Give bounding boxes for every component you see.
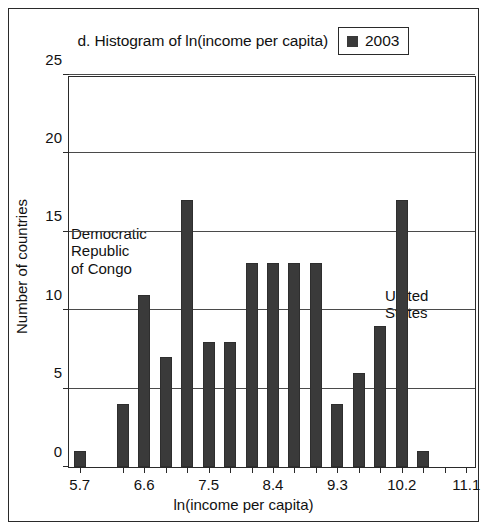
x-axis-tick-mark — [80, 467, 81, 473]
x-axis-tick-label: 9.3 — [327, 476, 348, 493]
figure-panel: d. Histogram of ln(income per capita) 20… — [8, 8, 479, 522]
y-axis-title: Number of countries — [11, 9, 33, 523]
histogram-bar — [396, 200, 408, 467]
histogram-bar — [181, 200, 193, 467]
x-axis-tick-mark — [144, 467, 145, 473]
x-axis-tick-mark — [445, 467, 446, 473]
chart-header: d. Histogram of ln(income per capita) 20… — [9, 21, 478, 61]
y-gridline — [69, 231, 475, 232]
histogram-bar — [246, 263, 258, 467]
legend-swatch-icon — [347, 36, 358, 47]
x-axis-tick-mark — [230, 467, 231, 473]
histogram-bar — [417, 451, 429, 467]
y-axis-tick-label: 20 — [45, 128, 69, 145]
x-axis-tick-mark — [187, 467, 188, 473]
y-axis-tick-label: 5 — [54, 364, 69, 381]
y-gridline — [69, 74, 475, 75]
x-axis-tick-label: 6.6 — [134, 476, 155, 493]
x-axis-tick-label: 11.1 — [452, 476, 480, 493]
x-axis-tick-mark — [380, 467, 381, 473]
x-axis-tick-mark — [294, 467, 295, 473]
x-axis-tick-mark — [123, 467, 124, 473]
y-axis-tick-mark — [63, 309, 69, 310]
x-axis-tick-mark — [402, 467, 403, 473]
y-axis-tick-mark — [63, 74, 69, 75]
chart-title: d. Histogram of ln(income per capita) — [78, 32, 328, 50]
legend: 2003 — [338, 27, 409, 55]
x-axis-tick-mark — [252, 467, 253, 473]
histogram-bar — [117, 404, 129, 467]
x-axis-tick-label: 5.7 — [69, 476, 90, 493]
annotation-democratic-republic-of-congo: DemocraticRepublicof Congo — [71, 225, 147, 277]
histogram-bar — [267, 263, 279, 467]
y-axis-tick-mark — [63, 231, 69, 232]
x-axis-title: ln(income per capita) — [9, 496, 478, 513]
y-axis-tick-mark — [63, 388, 69, 389]
x-axis-tick-mark — [273, 467, 274, 473]
x-axis-tick-label: 7.5 — [198, 476, 219, 493]
x-axis-tick-label: 8.4 — [263, 476, 284, 493]
x-axis-tick-mark — [466, 467, 467, 473]
annotation-line: of Congo — [71, 260, 147, 277]
histogram-bar — [74, 451, 86, 467]
histogram-bar — [160, 357, 172, 467]
histogram-bar — [374, 326, 386, 467]
histogram-bar — [353, 373, 365, 467]
y-axis-tick-label: 15 — [45, 207, 69, 224]
histogram-bar — [331, 404, 343, 467]
y-axis-tick-label: 25 — [45, 50, 69, 67]
x-axis-tick-mark — [316, 467, 317, 473]
x-axis-tick-mark — [337, 467, 338, 473]
x-axis-tick-mark — [423, 467, 424, 473]
x-axis-tick-mark — [209, 467, 210, 473]
x-axis-tick-mark — [359, 467, 360, 473]
histogram-bar — [310, 263, 322, 467]
x-axis-tick-label: 10.2 — [387, 476, 416, 493]
y-axis-tick-label: 10 — [45, 285, 69, 302]
y-axis-tick-mark — [63, 152, 69, 153]
histogram-bar — [224, 342, 236, 467]
histogram-bar — [288, 263, 300, 467]
y-axis-title-text: Number of countries — [14, 198, 31, 333]
annotation-line: Republic — [71, 242, 147, 259]
annotation-line: Democratic — [71, 225, 147, 242]
legend-label: 2003 — [365, 32, 399, 50]
y-axis-tick-label: 0 — [54, 442, 69, 459]
histogram-bar — [138, 295, 150, 467]
y-gridline — [69, 152, 475, 153]
histogram-bar — [203, 342, 215, 467]
y-axis-tick-mark — [63, 466, 69, 467]
x-axis-tick-mark — [166, 467, 167, 473]
plot-area: DemocraticRepublicof Congo UnitedStates … — [68, 76, 476, 468]
